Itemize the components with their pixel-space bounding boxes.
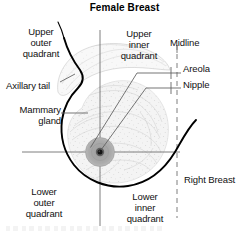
- label-lower-outer-quadrant: Lower outer quadrant: [13, 186, 75, 219]
- label-midline: Midline: [170, 37, 224, 48]
- mammary-gland-body: [68, 81, 169, 183]
- label-upper-outer-quadrant: Upper outer quadrant: [8, 26, 74, 59]
- label-mammary-gland: Mammary gland: [3, 104, 61, 126]
- label-axillary-tail: Axillary tail: [6, 80, 66, 91]
- label-right-breast: Right Breast: [184, 174, 248, 185]
- scan-artifact: [6, 226, 166, 231]
- breast-anatomy-diagram: Female Breast: [0, 0, 249, 233]
- label-upper-inner-quadrant: Upper inner quadrant: [108, 28, 170, 61]
- label-nipple: Nipple: [183, 79, 231, 90]
- label-areola: Areola: [183, 63, 231, 74]
- nipple-shape: [96, 148, 104, 156]
- label-lower-inner-quadrant: Lower inner quadrant: [118, 191, 172, 224]
